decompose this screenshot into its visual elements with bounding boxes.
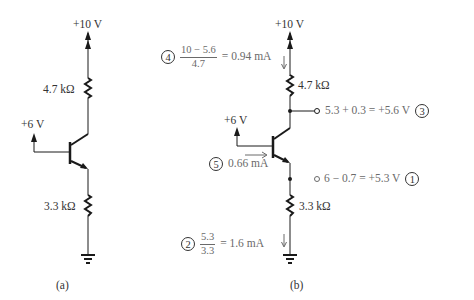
emitter-resistor-a — [85, 195, 91, 216]
fraction: 10 − 5.6 4.7 — [180, 45, 217, 69]
step-expression: 0.66 mA — [228, 158, 268, 170]
collector-resistor-b — [287, 75, 293, 96]
step-number-badge: 5 — [209, 157, 223, 171]
supply-label-a: +10 V — [73, 19, 102, 31]
emitter-resistor-b — [287, 195, 293, 216]
step-number-badge: 3 — [415, 104, 429, 118]
supply-arrow-icon — [287, 31, 293, 40]
emitter-terminal — [315, 177, 320, 182]
caption-a: (a) — [56, 280, 69, 292]
base-arrow-icon — [234, 127, 240, 136]
emitter-resistor-label-a: 3.3 kΩ — [44, 201, 76, 213]
collector-resistor-label-b: 4.7 kΩ — [298, 80, 330, 92]
base-voltage-label-a: +6 V — [21, 119, 44, 131]
step-1-annotation: 6 − 0.7 = +5.3 V 1 — [324, 172, 419, 186]
step-number-badge: 4 — [161, 50, 175, 64]
caption-b: (b) — [290, 280, 303, 292]
supply-arrow-icon — [85, 31, 91, 40]
circuit-a — [31, 31, 95, 263]
step-4-annotation: 4 10 − 5.6 4.7 = 0.94 mA — [161, 45, 271, 69]
step-3-annotation: 5.3 + 0.3 = +5.6 V 3 — [325, 104, 429, 118]
step-number-badge: 1 — [405, 172, 419, 186]
base-arrow-icon — [31, 133, 37, 142]
step-5-annotation: 5 0.66 mA — [209, 157, 268, 171]
step-expression: 5.3 + 0.3 = +5.6 V — [325, 105, 410, 117]
base-voltage-label-b: +6 V — [224, 115, 247, 127]
emitter-arrow-icon — [282, 157, 290, 163]
step-result: = 0.94 mA — [222, 51, 272, 63]
collector-terminal — [315, 109, 320, 114]
supply-label-b: +10 V — [275, 19, 304, 31]
fraction: 5.3 3.3 — [200, 232, 215, 256]
emitter-node — [288, 177, 292, 181]
emitter-resistor-label-b: 3.3 kΩ — [299, 201, 331, 213]
step-result: = 1.6 mA — [220, 238, 264, 250]
step-expression: 6 − 0.7 = +5.3 V — [324, 173, 400, 185]
step-number-badge: 2 — [181, 237, 195, 251]
collector-resistor-a — [85, 78, 91, 98]
step-2-annotation: 2 5.3 3.3 = 1.6 mA — [181, 232, 264, 256]
collector-resistor-label-a: 4.7 kΩ — [43, 84, 75, 96]
